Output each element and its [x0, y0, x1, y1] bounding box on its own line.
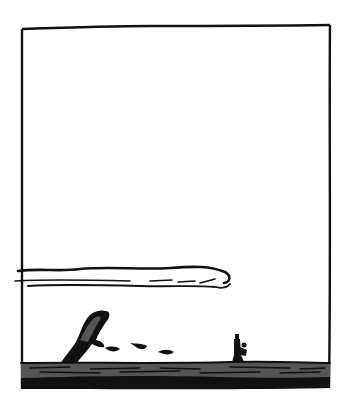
breaching-whale: [60, 310, 109, 364]
splash-1: [105, 347, 120, 352]
long-streaky-cloud: [15, 267, 230, 288]
splash-2: [130, 343, 147, 349]
splash-3: [158, 350, 174, 355]
comic-panel: [0, 0, 351, 411]
small-standing-person: [232, 334, 247, 362]
dark-sea-band: [21, 362, 330, 390]
panel-border: [22, 25, 330, 388]
